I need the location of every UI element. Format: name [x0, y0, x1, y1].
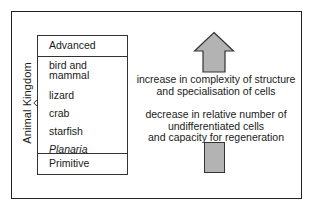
- list-item: lizard: [49, 89, 125, 101]
- statement-increase-complexity: increase in complexity of structure and …: [129, 74, 303, 97]
- statement-line: decrease in relative number of: [129, 109, 303, 121]
- organism-list: bird and mammal lizard crab starfish Pla…: [49, 60, 125, 161]
- table-footer-primitive: Primitive: [38, 153, 127, 174]
- statement-decrease-undifferentiated: decrease in relative number of undiffere…: [129, 109, 303, 144]
- table-header-advanced: Advanced: [38, 36, 127, 57]
- statement-line: and capacity for regeneration: [129, 132, 303, 144]
- list-item: bird and mammal: [49, 60, 125, 80]
- organism-table: Advanced bird and mammal lizard crab sta…: [37, 35, 128, 175]
- list-item: crab: [49, 107, 125, 119]
- statement-line: increase in complexity of structure: [129, 74, 303, 86]
- up-arrow-icon: [193, 31, 235, 73]
- arrow-shaft-bottom: [204, 142, 225, 173]
- statement-line: and specialisation of cells: [129, 86, 303, 98]
- animal-kingdom-label: Animal Kingdom: [21, 62, 33, 144]
- list-item: starfish: [49, 125, 125, 137]
- list-item-line: mammal: [49, 70, 125, 80]
